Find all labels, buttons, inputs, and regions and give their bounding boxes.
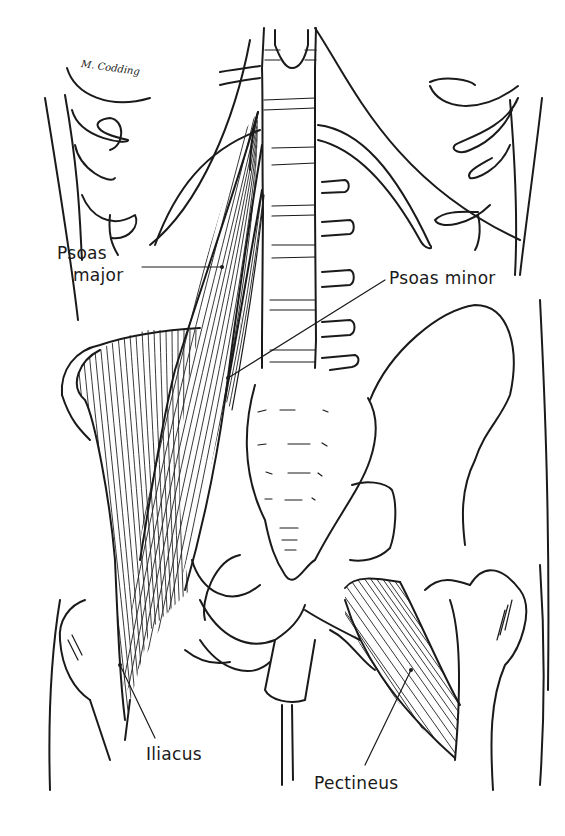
psoas-major-muscle <box>108 110 262 700</box>
label-psoas-major-line1: Psoas <box>57 242 107 264</box>
psoas-minor-muscle <box>225 190 264 410</box>
ribs-right <box>315 28 520 275</box>
iliacus-muscle <box>70 330 202 740</box>
iliacus-leader <box>120 665 155 738</box>
femur-left <box>60 600 110 760</box>
label-psoas-minor: Psoas minor <box>389 267 496 289</box>
label-pectineus: Pectineus <box>314 772 398 794</box>
anatomy-illustration: M. Codding Psoas major Psoas minor Iliac… <box>0 0 565 836</box>
pectineus-muscle <box>334 578 514 776</box>
label-psoas-major-line2: major <box>73 264 124 286</box>
anatomy-drawing <box>0 0 565 836</box>
ribs-left <box>65 40 260 260</box>
pelvis <box>62 305 514 785</box>
label-iliacus: Iliacus <box>146 743 202 765</box>
vertebral-column <box>262 28 358 370</box>
femur-right <box>425 565 544 790</box>
